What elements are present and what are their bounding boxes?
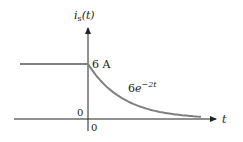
origin-y-tick: 0: [77, 107, 83, 118]
chart-svg: is(t) t 6 A 6e−2t 0 0: [0, 0, 243, 142]
curve-label: 6e−2t: [128, 80, 157, 95]
level-label: 6 A: [92, 58, 111, 71]
origin-x-tick: 0: [91, 122, 97, 133]
decay-curve: [88, 64, 201, 117]
y-axis-label: is(t): [74, 9, 95, 23]
x-axis-label: t: [222, 113, 227, 126]
